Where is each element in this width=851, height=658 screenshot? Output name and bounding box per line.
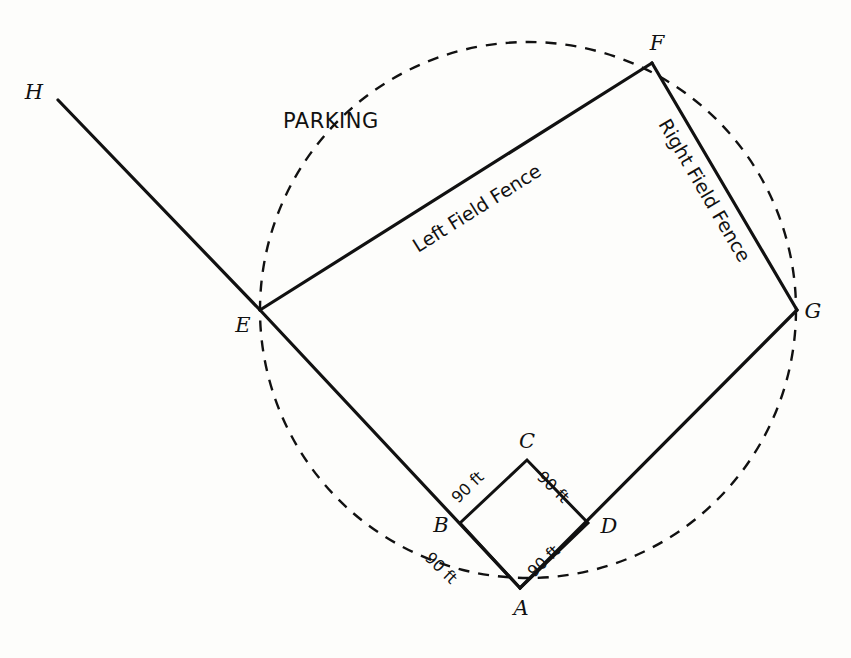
vertex-label-e: E [234,313,250,337]
baseball-field-diagram: H E F G A B C D PARKING Left Field Fence… [0,0,851,658]
vertex-label-b: B [432,513,448,537]
dimension-label-ab: 90 ft [421,548,461,587]
area-label-parking: PARKING [283,109,379,133]
segment-f-g-right-field-fence [652,63,797,310]
dimension-label-ad: 90 ft [524,541,564,580]
vertex-label-g: G [805,299,822,323]
vertex-label-h: H [24,80,44,104]
fence-label-right-field: Right Field Fence [655,115,756,266]
segment-h-e [58,100,260,310]
vertex-label-c: C [519,429,535,453]
segment-e-f-left-field-fence [260,63,652,310]
vertex-label-a: A [511,596,528,620]
diagram-page: H E F G A B C D PARKING Left Field Fence… [0,0,851,658]
vertex-label-d: D [600,514,618,538]
vertex-label-f: F [649,31,666,55]
